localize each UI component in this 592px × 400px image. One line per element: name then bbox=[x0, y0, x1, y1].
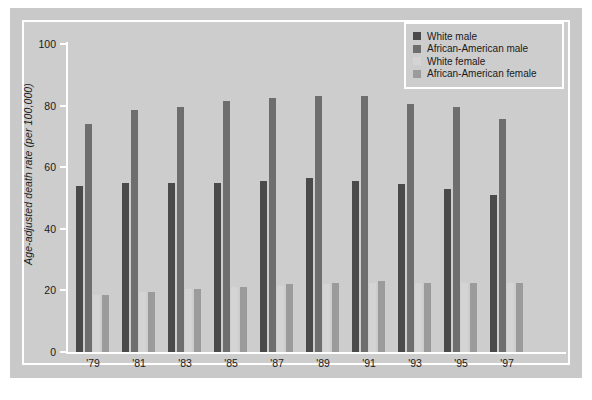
bar-group bbox=[398, 44, 432, 352]
bar bbox=[444, 189, 451, 352]
y-tick bbox=[60, 166, 68, 168]
bar bbox=[194, 289, 201, 352]
bar bbox=[470, 283, 477, 352]
bar bbox=[461, 283, 468, 352]
bar-group bbox=[122, 44, 156, 352]
legend-item: African-American male bbox=[413, 43, 555, 54]
bar bbox=[277, 286, 284, 352]
legend-item: White male bbox=[413, 31, 555, 42]
bar bbox=[415, 283, 422, 352]
x-tick-label: '97 bbox=[500, 357, 514, 369]
x-tick-label: '87 bbox=[270, 357, 284, 369]
bar bbox=[231, 287, 238, 352]
x-tick-label: '83 bbox=[178, 357, 192, 369]
y-tick bbox=[60, 105, 68, 107]
y-tick-label: 20 bbox=[14, 284, 56, 296]
x-tick-label: '91 bbox=[362, 357, 376, 369]
bar bbox=[148, 292, 155, 352]
bar bbox=[378, 281, 385, 352]
y-tick bbox=[60, 228, 68, 230]
bar bbox=[76, 186, 83, 352]
bar bbox=[139, 292, 146, 352]
bar bbox=[102, 295, 109, 352]
bar bbox=[131, 110, 138, 352]
legend-swatch-icon bbox=[413, 32, 421, 40]
plot-area bbox=[68, 44, 566, 352]
bar bbox=[369, 283, 376, 352]
bar-group bbox=[490, 44, 524, 352]
legend-label: African-American female bbox=[427, 68, 536, 79]
bar bbox=[507, 283, 514, 352]
y-tick-label: 100 bbox=[14, 38, 56, 50]
legend-label: African-American male bbox=[427, 43, 528, 54]
bar bbox=[122, 183, 129, 352]
x-tick-label: '93 bbox=[408, 357, 422, 369]
legend-label: White male bbox=[427, 31, 477, 42]
bar-group bbox=[444, 44, 478, 352]
bar bbox=[240, 287, 247, 352]
x-tick-label: '81 bbox=[132, 357, 146, 369]
bar bbox=[315, 96, 322, 352]
legend-swatch-icon bbox=[413, 70, 421, 78]
y-tick-label: 40 bbox=[14, 223, 56, 235]
bar bbox=[361, 96, 368, 352]
bar bbox=[286, 284, 293, 352]
bar bbox=[185, 289, 192, 352]
legend-swatch-icon bbox=[413, 45, 421, 53]
bar bbox=[332, 283, 339, 352]
figure: Age-adjusted death rate (per 100,000) 02… bbox=[0, 0, 592, 400]
bar-group bbox=[306, 44, 340, 352]
x-tick-label: '95 bbox=[454, 357, 468, 369]
legend-item: African-American female bbox=[413, 68, 555, 79]
bar-group bbox=[352, 44, 386, 352]
bar bbox=[424, 283, 431, 352]
bar-group bbox=[214, 44, 248, 352]
bar bbox=[352, 181, 359, 352]
x-axis-line bbox=[66, 352, 566, 354]
bar bbox=[516, 283, 523, 352]
bar bbox=[269, 98, 276, 352]
bar bbox=[93, 295, 100, 352]
bar-group bbox=[76, 44, 110, 352]
y-tick bbox=[60, 351, 68, 353]
bar-group bbox=[168, 44, 202, 352]
bar bbox=[499, 119, 506, 352]
legend-item: White female bbox=[413, 56, 555, 67]
bar bbox=[490, 195, 497, 352]
bar-group bbox=[260, 44, 294, 352]
bar bbox=[323, 284, 330, 352]
bar bbox=[407, 104, 414, 352]
bar bbox=[214, 183, 221, 352]
bar bbox=[85, 124, 92, 352]
y-tick-label: 80 bbox=[14, 100, 56, 112]
legend-label: White female bbox=[427, 56, 485, 67]
bar bbox=[260, 181, 267, 352]
bar bbox=[168, 183, 175, 352]
bar bbox=[177, 107, 184, 352]
bar bbox=[398, 184, 405, 352]
x-tick-label: '85 bbox=[224, 357, 238, 369]
x-tick-label: '89 bbox=[316, 357, 330, 369]
legend: White maleAfrican-American maleWhite fem… bbox=[404, 22, 564, 89]
y-tick-label: 60 bbox=[14, 161, 56, 173]
bar bbox=[223, 101, 230, 352]
y-tick bbox=[60, 43, 68, 45]
x-tick-label: '79 bbox=[86, 357, 100, 369]
bar bbox=[453, 107, 460, 352]
y-axis-labels: 020406080100 bbox=[14, 0, 56, 400]
y-tick bbox=[60, 289, 68, 291]
legend-swatch-icon bbox=[413, 57, 421, 65]
y-tick-label: 0 bbox=[14, 346, 56, 358]
bar bbox=[306, 178, 313, 352]
